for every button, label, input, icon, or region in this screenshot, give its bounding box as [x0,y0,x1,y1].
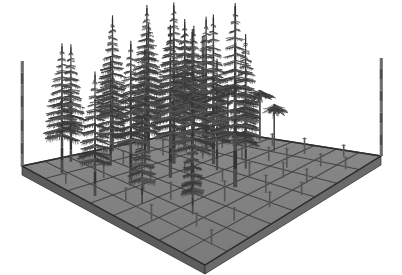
forest-scene-svg [0,0,402,275]
forest-stand-visualization [0,0,402,275]
